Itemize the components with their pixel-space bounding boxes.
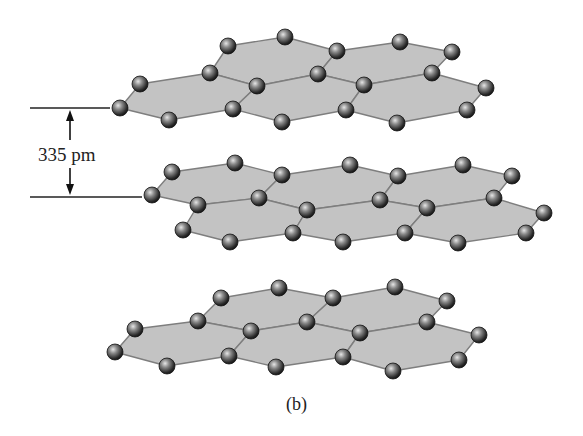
arrow-up-icon [66,110,74,121]
graphite-layers-diagram [0,0,583,436]
carbon-atom-icon [356,77,372,93]
carbon-atom-icon [249,78,265,94]
carbon-atom-icon [444,44,460,60]
carbon-atom-icon [325,290,341,306]
carbon-atom-icon [455,157,471,173]
carbon-atom-icon [274,167,290,183]
carbon-atom-icon [227,155,243,171]
carbon-atom-icon [385,363,401,379]
carbon-atom-icon [387,279,403,295]
carbon-atom-icon [372,192,388,208]
carbon-atom-icon [251,190,267,206]
carbon-atom-icon [220,38,236,54]
carbon-atom-icon [225,101,241,117]
carbon-atom-icon [392,34,408,50]
carbon-atom-icon [299,314,315,330]
carbon-atom-icon [202,65,218,81]
carbon-atom-icon [536,205,552,221]
carbon-atom-icon [518,225,534,241]
carbon-layers [107,29,552,379]
carbon-atom-icon [335,234,351,250]
carbon-atom-icon [390,168,406,184]
figure-caption: (b) [286,394,307,415]
arrow-down-icon [66,184,74,195]
carbon-atom-icon [190,313,206,329]
interlayer-spacing-label: 335 pm [36,144,98,166]
middle-layer [144,155,552,251]
carbon-atom-icon [342,157,358,173]
carbon-atom-icon [190,197,206,213]
carbon-atom-icon [299,202,315,218]
carbon-atom-icon [419,314,435,330]
carbon-atom-icon [213,290,229,306]
carbon-atom-icon [504,168,520,184]
top-layer [112,29,494,131]
carbon-atom-icon [161,112,177,128]
carbon-atom-icon [243,323,259,339]
carbon-atom-icon [459,102,475,118]
carbon-atom-icon [107,344,123,360]
carbon-atom-icon [127,321,143,337]
carbon-atom-icon [159,358,175,374]
carbon-atom-icon [112,100,128,116]
carbon-atom-icon [164,164,180,180]
carbon-atom-icon [221,348,237,364]
carbon-atom-icon [335,349,351,365]
carbon-atom-icon [144,187,160,203]
carbon-atom-icon [329,43,345,59]
carbon-atom-icon [285,225,301,241]
carbon-atom-icon [352,325,368,341]
carbon-atom-icon [397,225,413,241]
bottom-layer [107,279,487,379]
carbon-atom-icon [338,102,354,118]
carbon-atom-icon [274,114,290,130]
carbon-atom-icon [268,359,284,375]
carbon-atom-icon [439,293,455,309]
carbon-atom-icon [478,80,494,96]
carbon-atom-icon [389,115,405,131]
carbon-atom-icon [471,327,487,343]
carbon-atom-icon [424,65,440,81]
carbon-atom-icon [222,234,238,250]
carbon-atom-icon [486,190,502,206]
carbon-atom-icon [271,280,287,296]
carbon-atom-icon [277,29,293,45]
carbon-atom-icon [310,66,326,82]
carbon-atom-icon [175,222,191,238]
carbon-atom-icon [450,235,466,251]
carbon-atom-icon [451,352,467,368]
carbon-atom-icon [419,200,435,216]
carbon-atom-icon [132,76,148,92]
